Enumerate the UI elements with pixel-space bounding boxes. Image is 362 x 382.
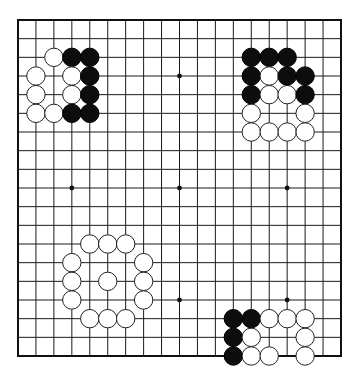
white-stone (63, 67, 81, 85)
go-board (0, 0, 362, 382)
white-stone (99, 309, 117, 327)
black-stone (81, 67, 99, 85)
white-stone (242, 123, 260, 141)
white-stone (260, 85, 278, 103)
white-stone (260, 123, 278, 141)
stone-group-bottom-left (63, 235, 153, 328)
white-stone (296, 123, 314, 141)
white-stone (242, 104, 260, 122)
star-point (285, 298, 290, 303)
white-stone (27, 67, 45, 85)
black-stone (224, 309, 242, 327)
black-stone (242, 85, 260, 103)
white-stone (116, 235, 134, 253)
star-point (177, 74, 182, 79)
black-stone (296, 85, 314, 103)
black-stone (224, 328, 242, 346)
white-stone (27, 85, 45, 103)
black-stone (63, 104, 81, 122)
black-stone (296, 67, 314, 85)
white-stone (278, 309, 296, 327)
black-stone (224, 347, 242, 365)
black-stone (242, 48, 260, 66)
white-stone (260, 347, 278, 365)
stone-group-top-left (27, 48, 99, 122)
white-stone (63, 253, 81, 271)
white-stone (134, 272, 152, 290)
go-board-diagram: Go board diagram (0, 0, 362, 382)
white-stone (296, 347, 314, 365)
white-stone (242, 328, 260, 346)
black-stone (81, 48, 99, 66)
white-stone (116, 309, 134, 327)
black-stone (81, 85, 99, 103)
white-stone (278, 85, 296, 103)
star-point (177, 186, 182, 191)
star-point (177, 298, 182, 303)
black-stone (81, 104, 99, 122)
star-point (69, 186, 74, 191)
stone-group-top-right (242, 48, 314, 141)
black-stone (278, 67, 296, 85)
white-stone (260, 309, 278, 327)
black-stone (278, 48, 296, 66)
white-stone (296, 309, 314, 327)
white-stone (63, 85, 81, 103)
black-stone (63, 48, 81, 66)
white-stone (278, 123, 296, 141)
white-stone (63, 272, 81, 290)
white-stone (134, 291, 152, 309)
white-stone (260, 67, 278, 85)
white-stone (45, 48, 63, 66)
white-stone (296, 104, 314, 122)
white-stone (81, 235, 99, 253)
white-stone (99, 235, 117, 253)
white-stone (134, 253, 152, 271)
white-stone (63, 291, 81, 309)
star-point (285, 186, 290, 191)
black-stone (242, 309, 260, 327)
white-stone (242, 347, 260, 365)
white-stone (296, 328, 314, 346)
white-stone (45, 104, 63, 122)
black-stone (260, 48, 278, 66)
white-stone (99, 272, 117, 290)
black-stone (242, 67, 260, 85)
white-stone (27, 104, 45, 122)
white-stone (81, 309, 99, 327)
